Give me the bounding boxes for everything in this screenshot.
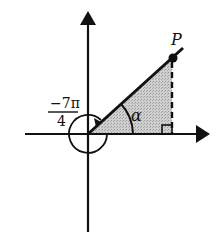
y-axis (80, 11, 96, 232)
y-axis-arrow-icon (80, 11, 96, 25)
angle-denominator: 4 (57, 113, 66, 129)
angle-numerator: −7π (50, 95, 80, 111)
x-axis-arrow-icon (196, 125, 210, 143)
alpha-label: α (131, 106, 142, 125)
diagram-canvas: P α −7π 4 (0, 0, 218, 235)
point-p (169, 54, 178, 63)
point-label: P (170, 30, 182, 49)
angle-fraction-label: −7π 4 (48, 95, 80, 129)
